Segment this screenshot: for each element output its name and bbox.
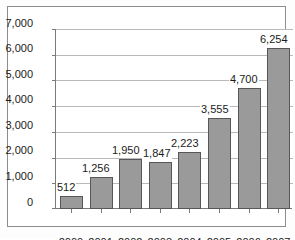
bar-2006[interactable] xyxy=(238,88,261,209)
bar-2002[interactable] xyxy=(119,159,142,209)
bar-value-label-2007: 6,254 xyxy=(259,34,289,45)
x-tick-2004 xyxy=(189,209,190,213)
y-axis-label-5000: 5,000 xyxy=(0,69,33,80)
x-tick-2005 xyxy=(219,209,220,213)
y-axis-label-1000: 1,000 xyxy=(0,171,33,182)
bar-2003[interactable] xyxy=(149,162,172,209)
y-axis-label-2000: 2,000 xyxy=(0,145,33,156)
x-tick-2002 xyxy=(130,209,131,213)
y-axis-label-3000: 3,000 xyxy=(0,120,33,131)
bar-value-label-2002: 1,950 xyxy=(111,145,141,156)
x-tick-2003 xyxy=(160,209,161,213)
y-axis-label-0: 0 xyxy=(0,197,33,208)
bar-value-label-2005: 3,555 xyxy=(200,104,230,115)
bar-value-label-2001: 1,256 xyxy=(81,163,111,174)
bar-2007[interactable] xyxy=(267,48,290,209)
x-tick-2001 xyxy=(101,209,102,213)
bar-series: 512 1,256 1,950 1,847 2,223 3,555 4,700 … xyxy=(56,29,293,209)
bar-value-label-2004: 2,223 xyxy=(170,138,200,149)
bar-2001[interactable] xyxy=(90,177,113,209)
bar-2000[interactable] xyxy=(60,196,83,209)
x-tick-2007 xyxy=(278,209,279,213)
y-axis-label-4000: 4,000 xyxy=(0,94,33,105)
x-tick-2006 xyxy=(249,209,250,213)
x-tick-2000 xyxy=(71,209,72,213)
x-axis-label-2007: 2007 xyxy=(260,236,295,238)
bar-value-label-2003: 1,847 xyxy=(142,148,172,159)
bar-2004[interactable] xyxy=(178,152,201,209)
bar-value-label-2000: 512 xyxy=(56,182,76,193)
bar-2005[interactable] xyxy=(208,118,231,209)
chart-frame: 7,000 6,000 5,000 4,000 3,000 2,000 1,00… xyxy=(7,6,286,227)
plot-area: 512 1,256 1,950 1,847 2,223 3,555 4,700 … xyxy=(55,29,292,209)
y-axis-label-7000: 7,000 xyxy=(0,18,33,29)
bar-chart-figure: 7,000 6,000 5,000 4,000 3,000 2,000 1,00… xyxy=(0,0,295,238)
bar-value-label-2006: 4,700 xyxy=(229,74,259,85)
y-axis-label-6000: 6,000 xyxy=(0,43,33,54)
